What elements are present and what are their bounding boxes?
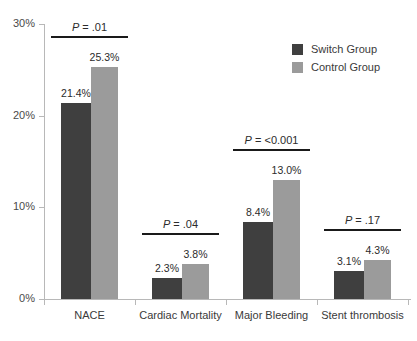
pvalue-label: P = <0.001 [233,134,310,146]
y-axis-line [44,24,45,300]
bar-value-label-switch: 3.1% [326,256,372,267]
pvalue-bracket-rule [324,229,401,231]
legend-item: Switch Group [292,40,380,58]
y-tick-label: 20% [0,110,35,121]
pvalue-label: P = .04 [142,218,219,230]
legend-color-swatch [292,44,303,55]
pvalue-p-symbol: P [72,21,79,33]
x-category-label: Major Bleeding [226,309,317,322]
bar-value-label-switch: 2.3% [144,263,190,274]
y-tick-label: 30% [0,18,35,29]
pvalue-bracket-rule [233,149,310,151]
x-tick-mark [317,299,318,305]
bar-value-label-control: 25.3% [83,52,126,63]
bar-switch-group [334,271,364,299]
bar-value-label-switch: 8.4% [235,207,281,218]
bar-control-group [91,67,118,299]
bar-switch-group [243,222,273,299]
bar-switch-group [152,278,182,299]
pvalue-label: P = .17 [324,214,401,226]
x-category-label: Cardiac Mortality [135,309,226,322]
bar-switch-group [61,103,91,299]
legend-label: Switch Group [311,44,377,55]
pvalue-bracket-rule [51,36,128,38]
pvalue-p-symbol: P [345,214,352,226]
pvalue-annotation: P = <0.001 [233,134,310,151]
bar-control-group [273,180,300,299]
pvalue-p-symbol: P [163,218,170,230]
y-tick-mark [39,116,45,117]
legend-color-swatch [292,62,303,73]
x-tick-mark [408,299,409,305]
bar-chart: 0%10%20%30% 21.4%25.3%2.3%3.8%8.4%13.0%3… [0,0,417,341]
pvalue-annotation: P = .04 [142,218,219,235]
pvalue-annotation: P = .01 [51,21,128,38]
x-category-label: Stent thrombosis [317,309,408,322]
y-tick-mark [39,207,45,208]
x-tick-mark [44,299,45,305]
pvalue-annotation: P = .17 [324,214,401,231]
legend: Switch GroupControl Group [292,40,380,76]
pvalue-label: P = .01 [51,21,128,33]
x-category-label: NACE [44,309,135,322]
legend-item: Control Group [292,58,380,76]
bar-value-label-control: 13.0% [265,165,308,176]
y-tick-label: 10% [0,201,35,212]
bar-value-label-switch: 21.4% [53,88,99,99]
legend-label: Control Group [311,62,380,73]
pvalue-bracket-rule [142,233,219,235]
x-tick-mark [226,299,227,305]
bar-value-label-control: 3.8% [174,249,217,260]
bar-value-label-control: 4.3% [356,245,399,256]
x-axis-line [44,299,411,300]
y-tick-label: 0% [0,293,35,304]
pvalue-p-symbol: P [245,134,252,146]
y-tick-mark [39,24,45,25]
x-tick-mark [135,299,136,305]
